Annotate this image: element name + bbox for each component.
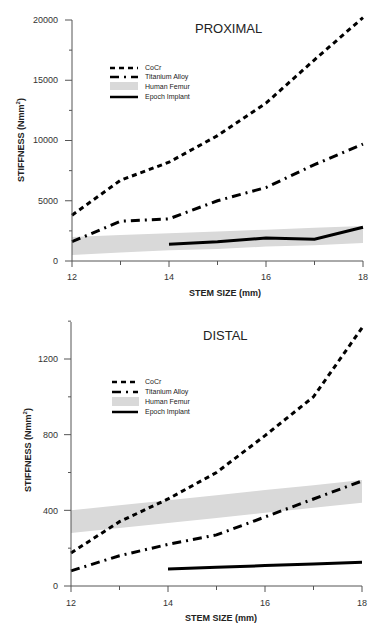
human-femur-range: [71, 480, 362, 533]
x-tick-label: 18: [357, 598, 367, 608]
y-tick-label: 15000: [33, 75, 58, 85]
figure: 0 5000 10000 15000 20000 12 14 16 18 STE…: [0, 0, 385, 639]
series-lines: [71, 328, 362, 571]
legend: CoCr Titanium Alloy Human Femur Epoch Im…: [112, 378, 190, 416]
human-femur-band: [71, 480, 362, 533]
chart-title: DISTAL: [203, 328, 248, 343]
x-tick-label: 18: [358, 272, 368, 282]
legend-label: Epoch Implant: [145, 408, 190, 416]
legend-label: Human Femur: [145, 83, 190, 90]
x-tick-label: 16: [261, 272, 271, 282]
y-tick-label: 5000: [38, 196, 58, 206]
legend-swatch-femur: [112, 397, 139, 406]
x-tick-label: 12: [67, 272, 77, 282]
y-tick-label: 400: [43, 506, 58, 516]
y-axis-title: STIFFNESS (Nmm2): [15, 98, 26, 182]
x-tick-label: 14: [164, 272, 174, 282]
x-tick-label: 14: [163, 598, 173, 608]
y-tick-label: 20000: [33, 15, 58, 25]
x-axis-title: STEM SIZE (mm): [189, 288, 261, 298]
legend-label: CoCr: [145, 378, 162, 385]
x-tick-label: 16: [260, 598, 270, 608]
axis-ticks: [64, 321, 362, 592]
legend-swatch-femur: [110, 82, 138, 90]
x-tick-label: 12: [66, 598, 76, 608]
cocr-line: [72, 18, 363, 216]
legend-label: CoCr: [145, 64, 162, 71]
y-tick-label: 0: [53, 256, 58, 266]
legend: CoCr Titanium Alloy Human Femur Epoch Im…: [110, 64, 190, 101]
distal-chart: 0 400 800 1200 12 14 16 18 STEM SIZE (mm…: [22, 321, 367, 623]
legend-label: Human Femur: [145, 398, 190, 405]
series-lines: [72, 18, 363, 245]
x-axis-title: STEM SIZE (mm): [185, 613, 257, 623]
legend-label: Titanium Alloy: [145, 388, 189, 396]
legend-label: Epoch Implant: [145, 93, 190, 101]
epoch-implant-line: [168, 562, 362, 569]
y-tick-label: 10000: [33, 135, 58, 145]
y-tick-label: 1200: [38, 354, 58, 364]
y-axis-title: STIFFNESS (Nmm2): [22, 408, 33, 492]
y-tick-label: 0: [53, 581, 58, 591]
proximal-chart: 0 5000 10000 15000 20000 12 14 16 18 STE…: [15, 15, 368, 298]
y-tick-label: 800: [43, 430, 58, 440]
legend-label: Titanium Alloy: [145, 73, 189, 81]
titanium-alloy-line: [72, 144, 363, 242]
chart-title: PROXIMAL: [195, 21, 262, 36]
